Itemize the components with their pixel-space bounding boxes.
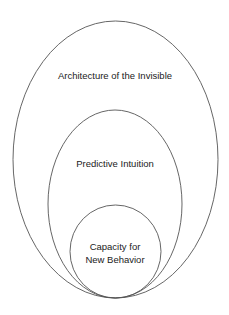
diagram-svg: Architecture of the Invisible Predictive…	[0, 0, 229, 315]
middle-label: Predictive Intuition	[76, 158, 154, 169]
outer-label: Architecture of the Invisible	[58, 70, 172, 81]
middle-ellipse	[48, 110, 182, 298]
inner-label-line-1: Capacity for	[90, 241, 141, 252]
inner-label-line-2: New Behavior	[85, 254, 144, 265]
nested-ellipse-diagram: Architecture of the Invisible Predictive…	[0, 0, 229, 315]
